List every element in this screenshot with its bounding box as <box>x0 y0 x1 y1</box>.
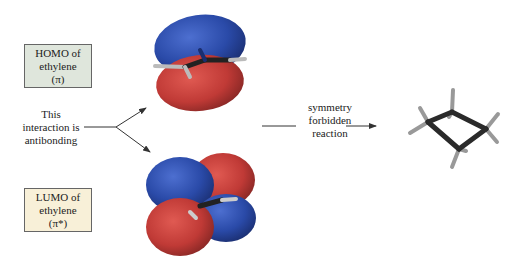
reaction-label: symmetry forbidden reaction <box>300 101 360 140</box>
lumo-line-3: (π*) <box>25 217 91 230</box>
lumo-label-box: LUMO of ethylene (π*) <box>24 188 92 232</box>
lumo-line-1: LUMO of <box>25 191 91 204</box>
lumo-orbital-model <box>146 153 256 256</box>
reaction-line-1: symmetry <box>300 101 360 114</box>
interaction-line-1: This <box>16 108 86 121</box>
reaction-line-2: forbidden <box>300 114 360 127</box>
lumo-line-2: ethylene <box>25 204 91 217</box>
homo-label-box: HOMO of ethylene (π) <box>24 44 92 88</box>
homo-line-1: HOMO of <box>25 47 91 60</box>
interaction-line-2: interaction is <box>16 121 86 134</box>
homo-line-3: (π) <box>25 73 91 86</box>
interaction-label: This interaction is antibonding <box>16 108 86 147</box>
homo-orbital-model <box>150 9 249 116</box>
reaction-line-3: reaction <box>300 127 360 140</box>
cyclobutane-model <box>410 90 498 167</box>
homo-line-2: ethylene <box>25 60 91 73</box>
branch-arrow <box>84 108 150 152</box>
interaction-line-3: antibonding <box>16 134 86 147</box>
